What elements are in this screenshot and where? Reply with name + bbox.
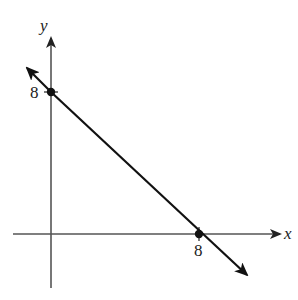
y-intercept-label: 8 — [30, 83, 39, 102]
x-intercept-point — [195, 230, 203, 238]
y-axis-label: y — [38, 16, 48, 35]
graph-line-continued — [51, 92, 247, 275]
line-graph-figure: y x 8 8 — [0, 0, 298, 300]
x-intercept-label: 8 — [194, 241, 203, 260]
x-axis-label: x — [283, 224, 292, 243]
y-intercept-point — [47, 88, 55, 96]
